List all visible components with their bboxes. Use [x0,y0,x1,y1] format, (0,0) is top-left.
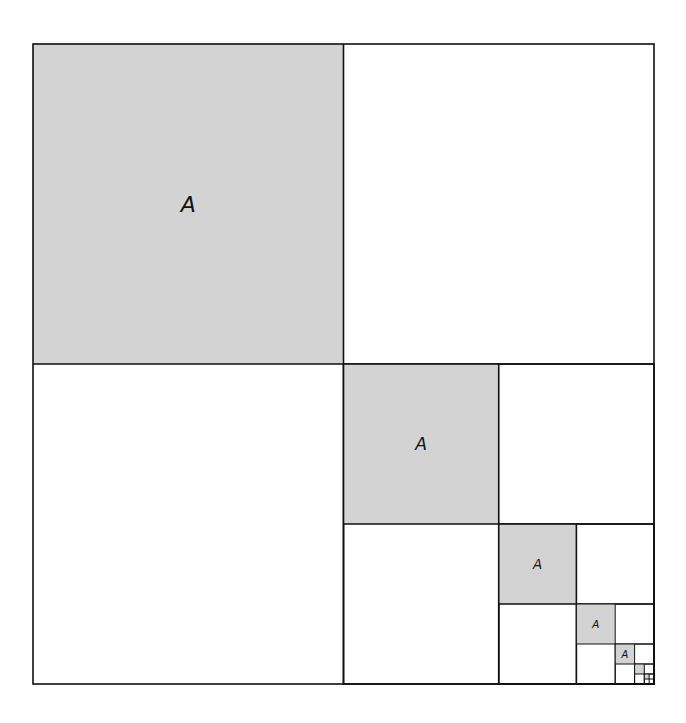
area-label-1: A [179,192,196,217]
area-label-4: A [591,618,599,630]
area-label-2: A [414,434,427,454]
shaded-square-7 [644,674,649,679]
square-subdivision-diagram: AAAAA [0,0,686,723]
shaded-square-6 [635,664,645,674]
area-label-3: A [532,557,542,572]
area-label-5: A [620,649,628,660]
